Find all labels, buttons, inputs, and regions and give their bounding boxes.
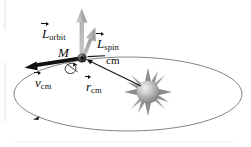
label-r-cm: rcm [86,78,102,94]
v-cm-symbol: v [35,76,41,89]
sun [124,68,172,116]
orbit-direction-arrow [33,116,40,120]
cm-text: cm [106,54,119,66]
l-spin-symbol: L [97,37,104,50]
r-cm-symbol: r [86,80,91,93]
orbit-path [14,57,242,131]
v-cm-subscript: cm [41,81,52,91]
mass-symbol: M [58,45,69,60]
label-l-spin: Lspin [97,35,119,51]
v-cm-vector [25,58,81,70]
label-cm: cm [106,51,119,67]
l-orbit-subscript: orbit [49,32,66,42]
physics-diagram-figure: Lorbit Lspin M cm vcm rcm [0,0,251,147]
sun-body [137,81,160,104]
label-v-cm: vcm [35,74,51,90]
l-orbit-symbol: L [42,27,49,40]
label-l-orbit: Lorbit [42,25,66,41]
spin-rotation-loop [65,63,78,74]
planet-core-dot [80,56,83,59]
r-cm-subscript: cm [91,85,102,95]
cm-leader-line [88,56,106,57]
label-mass: M [58,44,69,60]
